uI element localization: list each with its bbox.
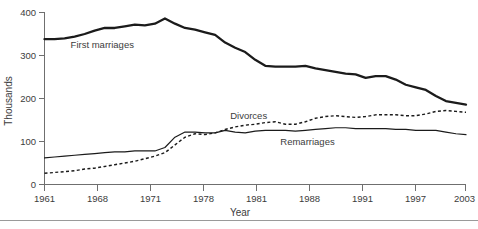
y-tick-label-400: 400 [20,7,36,18]
chart-figure: 400 300 200 100 0 1961 1968 1971 1978 19… [0,0,478,229]
series-line-first-marriages [45,19,467,105]
series-label-first-marriages: First marriages [71,39,135,50]
x-tick-label-1971: 1971 [140,193,161,204]
y-axis-title: Thousands [3,76,14,125]
footer-divider [0,220,478,221]
series-label-remarriages: Remarriages [280,136,335,147]
x-tick-label-1968: 1968 [87,193,108,204]
y-tick-label-300: 300 [20,50,36,61]
y-tick-label-0: 0 [31,179,36,190]
y-ticks: 400 300 200 100 0 [20,7,44,190]
series-line-remarriages [45,128,467,158]
y-tick-label-200: 200 [20,93,36,104]
y-tick-label-100: 100 [20,136,36,147]
series-label-divorces: Divorces [230,110,267,121]
x-tick-label-1991: 1991 [352,193,373,204]
x-tick-label-1981: 1981 [246,193,267,204]
x-tick-label-1961: 1961 [34,193,55,204]
x-tick-label-2003: 2003 [454,193,475,204]
x-tick-label-1978: 1978 [193,193,214,204]
x-tick-label-1997: 1997 [405,193,426,204]
x-axis-title: Year [230,207,251,218]
x-ticks: 1961 1968 1971 1978 1981 1988 1991 1997 … [34,185,475,205]
line-chart: 400 300 200 100 0 1961 1968 1971 1978 19… [0,0,478,229]
x-tick-label-1988: 1988 [299,193,320,204]
